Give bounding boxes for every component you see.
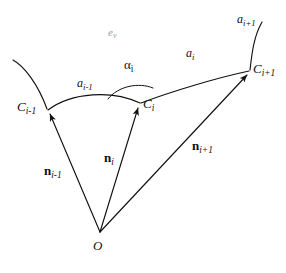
curve-segment-a-prev [48,95,140,110]
origin-label-o-base: O [93,238,102,253]
vector-label-n-next-sub: i+1 [199,145,213,155]
surface-label-ev: ev [108,27,116,38]
point-label-c-prev-sub: i-1 [26,106,36,116]
surface-label-ev-sub: v [113,31,117,40]
figure-canvas: ev ai+1 ai Ci+1 αi ai-1 Ci-1 Ci ni+1 ni … [0,0,286,273]
point-label-c-curr-base: C [143,96,152,111]
arc-label-a-curr: ai [186,47,194,59]
angle-label-alpha-base: α [124,57,131,72]
point-label-c-curr: Ci [143,97,154,110]
arc-label-a-next: ai+1 [237,13,256,25]
vector-label-n-curr-sub: i [111,157,114,167]
curve-segment-a-curr [141,71,249,103]
origin-label-o: O [93,239,102,252]
arc-label-a-prev-sub: i-1 [83,82,93,92]
vector-label-n-curr: ni [104,151,114,164]
arc-label-a-next-sub: i+1 [243,18,256,28]
vector-n-curr-arrow [100,108,138,232]
point-label-c-next: Ci+1 [253,62,275,75]
vector-label-n-next: ni+1 [192,139,213,152]
arc-label-a-prev: ai-1 [77,77,93,89]
point-label-c-next-base: C [253,61,262,76]
vector-label-n-prev-sub: i-1 [51,170,61,180]
curve-group [13,22,262,110]
point-label-c-prev: Ci-1 [17,100,36,113]
angle-label-alpha: αi [124,58,133,71]
diagram-vector-graphics [0,0,286,273]
vector-label-n-prev: ni-1 [44,164,62,177]
point-label-c-curr-sub: i [152,103,155,113]
point-label-c-next-sub: i+1 [262,68,276,78]
vector-n-next-arrow [100,75,247,232]
point-label-c-prev-base: C [17,99,26,114]
